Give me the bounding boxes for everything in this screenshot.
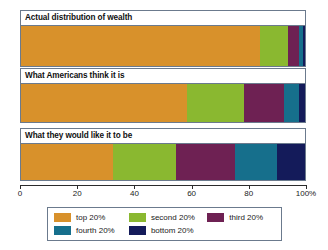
legend-item-second-20: second 20% bbox=[129, 213, 207, 222]
bar-segment-top-20 bbox=[21, 26, 260, 66]
bar-category-label: Actual distribution of wealth bbox=[25, 14, 132, 22]
x-axis-tick-label: 40 bbox=[130, 190, 139, 198]
stacked-bar bbox=[20, 25, 306, 67]
legend-label: top 20% bbox=[76, 214, 105, 222]
bar-segment-bottom-20 bbox=[277, 144, 305, 180]
wealth-distribution-chart: Actual distribution of wealth What Ameri… bbox=[0, 0, 328, 250]
bar-segment-bottom-20 bbox=[303, 26, 305, 66]
bar-group-would-like: What they would like it to be bbox=[20, 128, 306, 181]
legend-swatch-second-20-icon bbox=[129, 213, 146, 222]
bar-label-box: Actual distribution of wealth bbox=[20, 10, 306, 25]
bar-segment-second-20 bbox=[113, 144, 175, 180]
legend-swatch-third-20-icon bbox=[207, 213, 224, 222]
x-axis: 020406080100% bbox=[20, 185, 306, 201]
bar-category-label: What Americans think it is bbox=[25, 72, 124, 80]
bar-group-actual-distribution: Actual distribution of wealth bbox=[20, 10, 306, 67]
legend-swatch-top-20-icon bbox=[54, 213, 71, 222]
x-axis-tick-label: 80 bbox=[244, 190, 253, 198]
stacked-bar bbox=[20, 83, 306, 123]
stacked-bar bbox=[20, 143, 306, 181]
legend-row: top 20% second 20% third 20% bbox=[54, 211, 277, 224]
legend-label: fourth 20% bbox=[76, 227, 115, 235]
bar-segment-second-20 bbox=[187, 84, 244, 122]
x-axis-tick-label: 60 bbox=[187, 190, 196, 198]
legend-label: second 20% bbox=[151, 214, 195, 222]
legend-swatch-bottom-20-icon bbox=[129, 226, 146, 235]
bar-segment-top-20 bbox=[21, 84, 187, 122]
bar-segment-bottom-20 bbox=[299, 84, 305, 122]
bar-segment-fourth-20 bbox=[284, 84, 300, 122]
legend: top 20% second 20% third 20% fourth 20% … bbox=[47, 207, 282, 241]
plot-area: Actual distribution of wealth What Ameri… bbox=[20, 10, 306, 185]
legend-label: bottom 20% bbox=[151, 227, 194, 235]
legend-label: third 20% bbox=[229, 214, 263, 222]
bar-segment-third-20 bbox=[244, 84, 284, 122]
legend-swatch-fourth-20-icon bbox=[54, 226, 71, 235]
bar-segment-top-20 bbox=[21, 144, 113, 180]
bar-segment-second-20 bbox=[260, 26, 288, 66]
bar-category-label: What they would like it to be bbox=[25, 132, 132, 140]
legend-item-bottom-20: bottom 20% bbox=[129, 226, 207, 235]
legend-item-top-20: top 20% bbox=[54, 213, 129, 222]
bar-group-americans-think: What Americans think it is bbox=[20, 68, 306, 123]
x-axis-tick-label: 0 bbox=[18, 190, 22, 198]
x-axis-tick-label: 100% bbox=[296, 190, 316, 198]
bar-label-box: What Americans think it is bbox=[20, 68, 306, 83]
x-axis-tick-label: 20 bbox=[73, 190, 82, 198]
bar-label-box: What they would like it to be bbox=[20, 128, 306, 143]
x-axis-line bbox=[20, 185, 306, 186]
legend-item-fourth-20: fourth 20% bbox=[54, 226, 129, 235]
legend-row: fourth 20% bottom 20% bbox=[54, 224, 277, 237]
bar-segment-third-20 bbox=[288, 26, 299, 66]
bar-segment-fourth-20 bbox=[235, 144, 276, 180]
bar-segment-third-20 bbox=[176, 144, 236, 180]
legend-item-third-20: third 20% bbox=[207, 213, 277, 222]
